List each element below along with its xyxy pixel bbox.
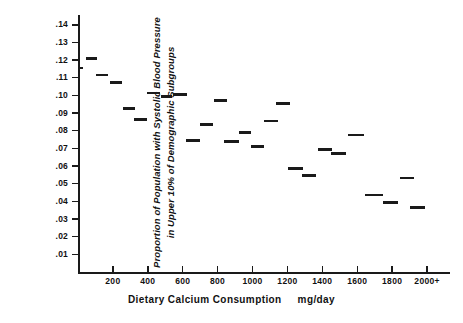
data-segment [200, 123, 213, 126]
data-segment [410, 206, 425, 209]
y-axis-tick-label: .11 [42, 73, 68, 82]
x-axis-units: mg/day [298, 294, 335, 305]
y-axis-tick-label: .13 [42, 38, 68, 47]
y-axis-tick-label: .05 [42, 179, 68, 188]
x-axis-tick-label: 2000+ [407, 277, 447, 286]
data-segment [400, 177, 414, 180]
data-segment [110, 81, 122, 84]
data-segment [147, 92, 160, 95]
x-axis-title-text: Dietary Calcium Consumption [128, 294, 282, 305]
data-segment [348, 134, 364, 137]
data-segment [239, 131, 251, 134]
data-segment [86, 57, 97, 60]
y-axis-tick-label: .04 [42, 197, 68, 206]
data-segment [78, 67, 83, 70]
x-axis-line [78, 272, 450, 274]
data-segment [276, 102, 290, 105]
data-segment [264, 120, 278, 123]
data-segment [173, 93, 188, 96]
data-segment [186, 139, 200, 142]
y-axis-tick-label: .12 [42, 56, 68, 65]
data-segment [96, 74, 107, 77]
data-segment [251, 145, 264, 148]
data-segment [365, 194, 382, 197]
data-segment [134, 118, 148, 121]
y-axis-tick-label: .09 [42, 109, 68, 118]
data-segment [318, 148, 332, 151]
data-segment [288, 167, 303, 170]
data-segment [224, 140, 239, 143]
y-axis-tick-label: .06 [42, 162, 68, 171]
y-axis-tick-label: .07 [42, 144, 68, 153]
data-segment [214, 99, 227, 102]
x-axis-title: Dietary Calcium Consumptionmg/day [0, 295, 463, 305]
data-segment [302, 174, 316, 177]
y-axis-tick-label: .14 [42, 20, 68, 29]
y-axis-tick-label: .08 [42, 126, 68, 135]
y-axis-tick-label: .03 [42, 215, 68, 224]
data-segment [161, 95, 172, 98]
plot-area [78, 16, 448, 272]
data-segment [331, 152, 346, 155]
y-axis-tick-label: .01 [42, 250, 68, 259]
y-axis-tick-label: .10 [42, 91, 68, 100]
y-axis-tick-label: .02 [42, 232, 68, 241]
data-segment [383, 201, 398, 204]
chart-figure: Proportion of Population with Systolic B… [0, 0, 463, 323]
data-segment [123, 107, 136, 110]
